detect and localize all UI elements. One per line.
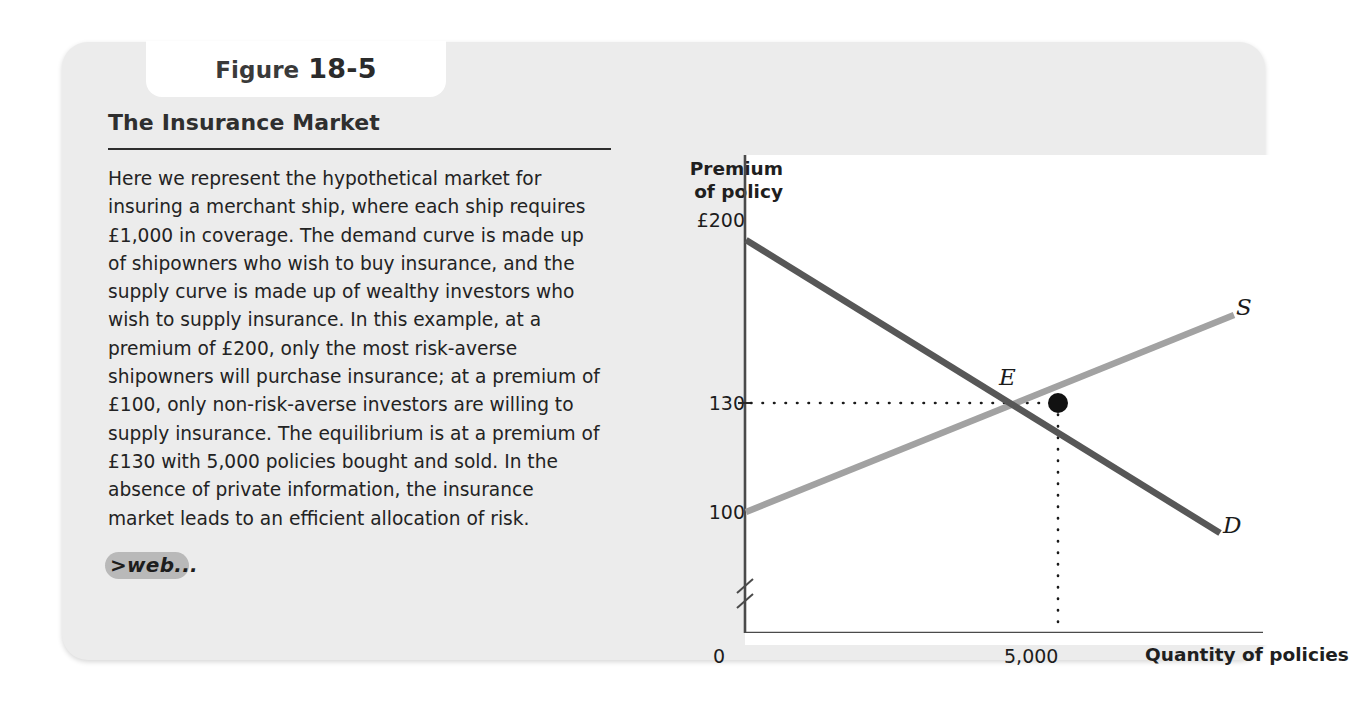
web-link-row[interactable]: >web...	[108, 551, 614, 581]
x-tick-label-5000: 5,000	[1004, 645, 1058, 667]
page-title: The Insurance Market	[108, 110, 614, 135]
figure-number: 18-5	[308, 53, 376, 84]
figure-number-tab: Figure 18-5	[146, 41, 446, 97]
demand-curve	[746, 240, 1220, 533]
x-tick-label-0: 0	[713, 645, 725, 667]
x-axis-title: Quantity of policies	[1145, 644, 1349, 665]
supply-curve	[746, 315, 1234, 512]
web-link-label[interactable]: >web...	[108, 553, 198, 577]
equilibrium-point	[1048, 393, 1068, 413]
text-column: The Insurance Market Here we represent t…	[108, 110, 614, 581]
chart-svg	[683, 113, 1263, 633]
figure-card: Figure 18-5 The Insurance Market Here we…	[62, 42, 1265, 660]
title-divider	[108, 148, 611, 150]
description-paragraph: Here we represent the hypothetical marke…	[108, 165, 604, 533]
figure-label-word: Figure	[215, 57, 299, 83]
insurance-market-chart: Premium of policy £200 130 100 0 5,000 Q…	[683, 113, 1263, 633]
